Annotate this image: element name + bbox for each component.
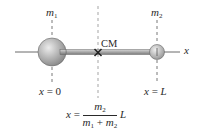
den-plus: + [94,116,106,128]
mass2-label: m2 [151,7,162,20]
x-equals-L-label: x = L [144,86,167,97]
x0-eq: = 0 [44,85,61,97]
connecting-rod [62,50,152,55]
formula-fraction: m2m1 + m2 [83,101,118,129]
mass1-var: m [46,6,54,18]
num-sub: 2 [102,106,106,114]
mass1-label: m1 [46,7,57,20]
den-sub2: 2 [114,122,118,129]
mass2-var: m [151,6,159,18]
formula-denominator: m1 + m2 [83,116,118,129]
xL-eq: = [149,85,161,97]
formula-numerator: m2 [83,101,118,116]
xL-val: L [161,85,167,97]
mass1-sub: 1 [54,12,58,20]
x-equals-zero-label: x = 0 [39,86,61,97]
formula-eq: = [71,108,83,120]
cm-label: CM [101,39,117,50]
rod-end-inset [60,50,66,55]
cm-position-formula: x = m2m1 + m2 L [66,101,126,129]
num-var: m [94,100,102,112]
x-axis-label: x [184,45,189,56]
mass2-sub: 2 [159,12,163,20]
formula-tail: L [120,108,126,120]
den-var1: m [83,116,91,128]
den-var2: m [106,116,114,128]
